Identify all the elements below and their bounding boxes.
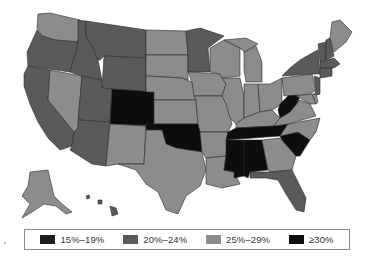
state-KS bbox=[154, 100, 198, 124]
legend-swatch-15-19 bbox=[40, 235, 55, 244]
legend-label: ≥30% bbox=[309, 234, 334, 245]
legend-label: 20%–24% bbox=[143, 234, 187, 245]
state-ME bbox=[330, 20, 352, 52]
legend-label: 25%–29% bbox=[226, 234, 270, 245]
legend-item-20-24: 20%–24% bbox=[123, 234, 187, 245]
state-HI-3 bbox=[86, 195, 90, 199]
state-MI bbox=[244, 46, 262, 82]
state-AR bbox=[200, 132, 228, 158]
state-WY bbox=[102, 56, 146, 92]
legend-swatch-25-29 bbox=[206, 235, 221, 244]
state-CT bbox=[320, 68, 332, 78]
legend-swatch-20-24 bbox=[123, 235, 138, 244]
state-HI-2 bbox=[98, 200, 102, 204]
state-IA bbox=[188, 72, 226, 96]
state-NY bbox=[282, 50, 320, 76]
state-HI bbox=[110, 206, 118, 216]
state-NM bbox=[106, 124, 146, 166]
scan-mark bbox=[4, 242, 6, 244]
legend-label: 15%–19% bbox=[60, 234, 104, 245]
us-choropleth-map bbox=[0, 0, 367, 225]
state-CO bbox=[110, 89, 154, 126]
legend-item-15-19: 15%–19% bbox=[40, 234, 104, 245]
state-ND bbox=[146, 30, 188, 55]
legend-item-30-plus: ≥30% bbox=[289, 234, 334, 245]
legend-item-25-29: 25%–29% bbox=[206, 234, 270, 245]
state-FL bbox=[250, 170, 306, 212]
legend-swatch-30-plus bbox=[289, 235, 304, 244]
state-VT bbox=[318, 42, 326, 62]
state-AK bbox=[22, 170, 72, 218]
state-OH bbox=[258, 78, 282, 112]
map-legend: 15%–19% 20%–24% 25%–29% ≥30% bbox=[24, 229, 350, 250]
state-PA bbox=[282, 74, 316, 96]
